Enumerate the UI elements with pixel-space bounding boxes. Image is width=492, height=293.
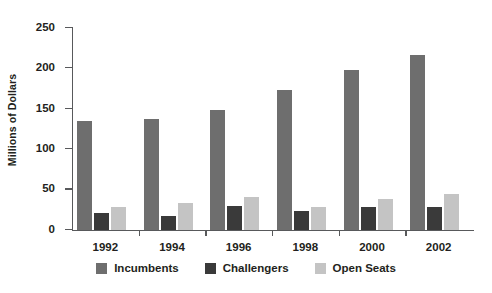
legend-swatch-icon xyxy=(205,263,216,274)
y-axis-tick: 50 xyxy=(65,188,72,189)
y-axis-tick-label: 150 xyxy=(36,102,55,114)
plot-area: 050100150200250 199219941996199820002002 xyxy=(72,28,472,230)
legend-swatch-icon xyxy=(315,263,326,274)
y-axis-tick-label: 250 xyxy=(36,21,55,33)
bar xyxy=(144,119,159,231)
x-axis-tick xyxy=(139,230,140,236)
legend-swatch-icon xyxy=(96,263,107,274)
x-axis-tick-label: 1996 xyxy=(226,241,252,253)
y-axis-tick-label: 0 xyxy=(49,223,55,235)
bar xyxy=(227,206,242,230)
x-axis-tick-label: 1992 xyxy=(93,241,119,253)
y-axis-title: Millions of Dollars xyxy=(6,60,24,180)
bar xyxy=(410,55,425,230)
legend-label: Open Seats xyxy=(333,262,396,274)
legend-entry: Open Seats xyxy=(315,262,396,274)
y-axis-tick: 250 xyxy=(65,27,72,28)
x-axis-tick xyxy=(205,230,206,236)
legend-entry: Incumbents xyxy=(96,262,179,274)
chart-legend: IncumbentsChallengersOpen Seats xyxy=(0,262,492,274)
y-axis-tick-label: 50 xyxy=(42,182,55,194)
bar xyxy=(178,203,193,230)
x-axis-tick-label: 1994 xyxy=(159,241,185,253)
y-axis-tick: 150 xyxy=(65,108,72,109)
bar xyxy=(444,194,459,230)
bar xyxy=(344,70,359,230)
bar-chart: Millions of Dollars 050100150200250 1992… xyxy=(0,0,492,293)
bar xyxy=(427,207,442,230)
x-axis-tick xyxy=(272,230,273,236)
bar xyxy=(361,207,376,230)
bar xyxy=(77,121,92,230)
bar xyxy=(210,110,225,230)
x-axis-tick xyxy=(405,230,406,236)
bar xyxy=(94,213,109,230)
y-axis-tick: 0 xyxy=(65,229,72,230)
x-axis-tick xyxy=(339,230,340,236)
bar xyxy=(161,216,176,230)
legend-label: Incumbents xyxy=(114,262,179,274)
x-axis-tick-label: 2002 xyxy=(426,241,452,253)
bar xyxy=(277,90,292,230)
y-axis-tick: 100 xyxy=(65,148,72,149)
bar xyxy=(111,207,126,230)
x-axis-tick-label: 1998 xyxy=(293,241,319,253)
y-axis-tick-label: 100 xyxy=(36,142,55,154)
bar xyxy=(244,197,259,230)
bar xyxy=(311,207,326,230)
x-axis-tick-label: 2000 xyxy=(359,241,385,253)
y-axis-tick: 200 xyxy=(65,67,72,68)
legend-entry: Challengers xyxy=(205,262,289,274)
legend-label: Challengers xyxy=(223,262,289,274)
bar xyxy=(378,199,393,231)
bar xyxy=(294,211,309,230)
y-axis-tick-label: 200 xyxy=(36,61,55,73)
